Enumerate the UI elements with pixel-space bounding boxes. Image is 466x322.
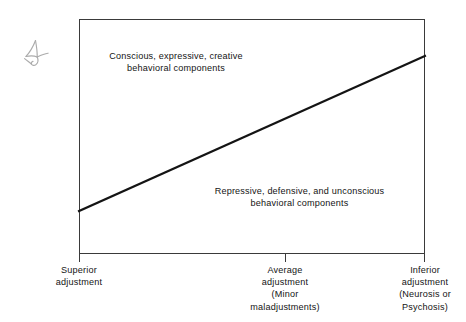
axis-label-average-line4: maladjustments) <box>225 301 345 313</box>
axis-tick-average <box>285 253 286 262</box>
axis-label-inferior-line1: Inferior <box>365 264 466 276</box>
axis-label-inferior-line2: adjustment <box>365 276 466 288</box>
upper-region-label: Conscious, expressive, creative behavior… <box>100 50 252 75</box>
adjustment-continuum-figure: Conscious, expressive, creative behavior… <box>0 0 466 322</box>
axis-label-superior: Superior adjustment <box>19 264 139 288</box>
axis-label-average-line2: adjustment <box>225 276 345 288</box>
axis-label-inferior-line4: Psychosis) <box>365 301 466 313</box>
lower-region-label: Repressive, defensive, and unconscious b… <box>198 185 401 210</box>
upper-region-label-line1: Conscious, expressive, creative <box>100 50 252 62</box>
axis-label-inferior: Inferior adjustment (Neurosis or Psychos… <box>365 264 466 313</box>
axis-tick-inferior <box>424 253 425 262</box>
axis-label-superior-line2: adjustment <box>19 276 139 288</box>
axis-label-average-line1: Average <box>225 264 345 276</box>
axis-label-average: Average adjustment (Minor maladjustments… <box>225 264 345 313</box>
axis-label-inferior-line3: (Neurosis or <box>365 288 466 300</box>
axis-tick-superior <box>79 253 80 262</box>
lower-region-label-line1: Repressive, defensive, and unconscious <box>198 185 401 197</box>
lower-region-label-line2: behavioral components <box>198 197 401 209</box>
upper-region-label-line2: behavioral components <box>100 62 252 74</box>
axis-label-superior-line1: Superior <box>19 264 139 276</box>
axis-label-average-line3: (Minor <box>225 288 345 300</box>
handwritten-margin-mark-icon <box>16 36 52 70</box>
